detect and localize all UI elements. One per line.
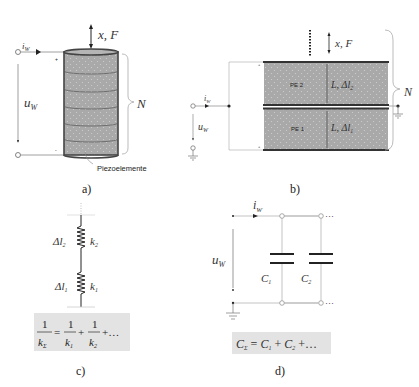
voltage-label: uW — [24, 95, 39, 112]
caption-a: a) — [82, 182, 91, 196]
spring1-k-label: k1 — [90, 280, 98, 293]
piezo-stack-cylinder — [64, 52, 118, 155]
svg-text:1: 1 — [42, 318, 48, 330]
spring2-disp-label: Δl2 — [52, 235, 66, 248]
pe1-block — [264, 109, 388, 150]
spring2-k-label: k2 — [90, 235, 98, 248]
voltage-label: uW — [198, 121, 209, 133]
ellipsis-bottom: ··· — [325, 298, 334, 308]
panel-a: iW uW + - x, F N Piezoelemente a) — [16, 24, 148, 196]
count-label: N — [136, 96, 147, 111]
svg-text:1: 1 — [68, 318, 74, 330]
count-label: N — [403, 85, 413, 99]
c1-label: C1 — [261, 272, 271, 285]
current-arrow-icon — [36, 49, 41, 55]
caption-d: d) — [275, 364, 285, 378]
pe1-dim-label: L, Δl1 — [330, 122, 353, 134]
panel-b: x, F PE 2 PE 1 L, Δl2 L, Δl1 iW uW — [188, 30, 413, 196]
force-label: x, F — [97, 27, 119, 42]
ground-icon — [393, 106, 403, 118]
svg-text:1: 1 — [92, 318, 98, 330]
current-label: iW — [253, 198, 263, 214]
svg-text:+: + — [258, 62, 261, 67]
brace-icon — [122, 54, 134, 154]
c2-label: C2 — [301, 272, 311, 285]
ground-icon — [226, 303, 240, 319]
terminal-bottom — [16, 153, 21, 158]
pe2-dim-label: L, Δl2 — [330, 79, 353, 91]
piezoelement-label: Piezoelemente — [97, 164, 147, 173]
svg-text:+…: +… — [102, 326, 119, 338]
spring1-disp-label: Δl1 — [54, 280, 68, 293]
pe2-block — [264, 62, 388, 105]
pe2-label: PE 2 — [290, 82, 304, 88]
force-label: x, F — [334, 37, 352, 49]
caption-b: b) — [290, 182, 300, 196]
ellipsis-top: ··· — [325, 211, 334, 221]
diagram-canvas: iW uW + - x, F N Piezoelemente a) — [0, 0, 419, 387]
current-label: iW — [22, 41, 31, 52]
panel-c: Δl2 k2 Δl1 k1 1 kΣ = 1 k1 + 1 k2 +… c) — [34, 203, 130, 378]
svg-text:-: - — [55, 147, 57, 153]
terminal-input — [191, 104, 195, 108]
pe1-label: PE 1 — [291, 126, 305, 132]
current-label: iW — [204, 94, 211, 104]
spring-k1-icon — [77, 272, 85, 294]
svg-text:=: = — [54, 326, 60, 338]
capacitor-formula: CΣ = C1 + C2 +… — [236, 337, 317, 351]
svg-text:+: + — [78, 326, 84, 338]
terminal-top — [16, 50, 21, 55]
caption-c: c) — [76, 364, 85, 378]
current-arrow-icon — [253, 214, 258, 218]
spring-k2-icon — [77, 226, 85, 248]
panel-d: iW uW C1 C2 ··· ··· CΣ = C1 + C2 +… — [212, 198, 334, 378]
current-arrow-icon — [205, 104, 209, 108]
svg-text:+: + — [258, 144, 261, 149]
svg-text:+: + — [55, 56, 58, 62]
voltage-label: uW — [212, 252, 227, 269]
ground-icon — [188, 150, 198, 160]
